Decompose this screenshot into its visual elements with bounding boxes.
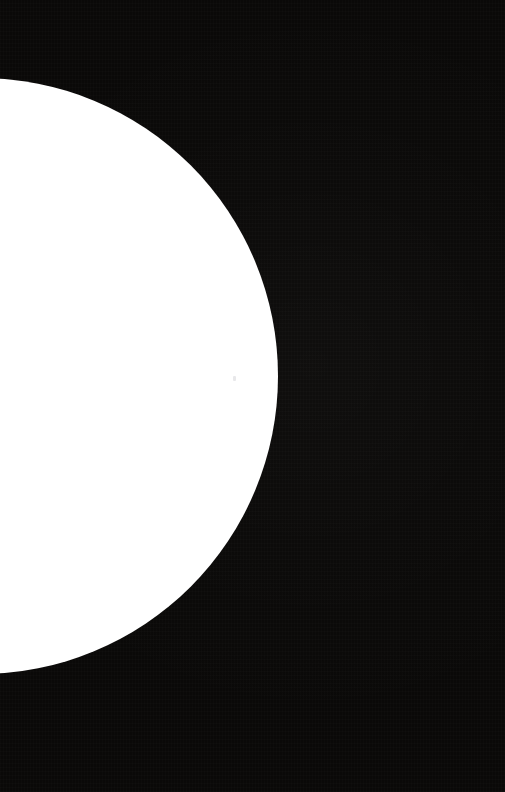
shape-layer bbox=[0, 0, 505, 792]
white-disc-shape bbox=[0, 78, 278, 674]
image-canvas: A large solid white disc whose left port… bbox=[0, 0, 505, 792]
